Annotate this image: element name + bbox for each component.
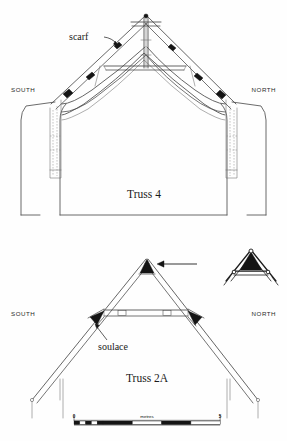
scale-unit-label: metres [140,414,154,419]
scale-seg-2 [132,421,161,425]
scale-sub-2 [80,421,86,425]
truss2a-collar-peg-left [118,311,126,316]
truss2a-left-foot-joint [30,398,33,401]
scale-sub-4 [91,421,97,425]
truss4-apex-joint-mark [144,14,148,18]
scale-sub-5 [97,421,103,425]
scale-seg-4 [191,421,220,425]
scarf-label: scarf [69,31,89,42]
truss4-caption: Truss 4 [127,188,161,200]
figure-plate: scarf SOUTH NORTH Truss 4 [0,0,287,441]
inset-apex-joint [249,249,253,253]
truss2a-collar-peg-right [163,311,171,316]
inset-collar-joint-left [232,270,236,274]
truss4-north-label: NORTH [252,86,276,93]
scale-sub-1 [74,421,80,425]
truss4-south-label: SOUTH [11,86,35,93]
truss2a-right-foot-joint [256,398,259,401]
scale-sub-3 [86,421,92,425]
scale-seg-1 [103,421,132,425]
truss2a-south-label: SOUTH [11,310,35,317]
scale-seg-3 [162,421,191,425]
truss2a-caption: Truss 2A [126,372,169,384]
truss-drawing-svg: scarf SOUTH NORTH Truss 4 [0,0,287,441]
soulace-label: soulace [98,341,129,352]
truss2a-north-label: NORTH [252,310,276,317]
inset-collar-joint-right [266,270,270,274]
